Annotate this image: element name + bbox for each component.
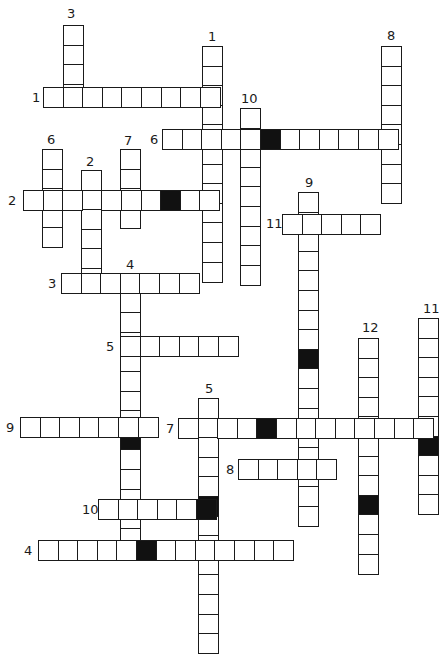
- letter-cell[interactable]: [321, 214, 342, 235]
- letter-cell[interactable]: [198, 336, 219, 357]
- letter-cell[interactable]: [198, 457, 219, 478]
- letter-cell[interactable]: [418, 455, 439, 476]
- letter-cell[interactable]: [61, 273, 82, 294]
- letter-cell[interactable]: [358, 129, 379, 150]
- letter-cell[interactable]: [120, 312, 141, 333]
- letter-cell[interactable]: [354, 418, 375, 439]
- letter-cell[interactable]: [358, 338, 379, 359]
- letter-cell[interactable]: [298, 270, 319, 291]
- letter-cell[interactable]: [358, 475, 379, 496]
- letter-cell[interactable]: [358, 436, 379, 457]
- letter-cell[interactable]: [100, 273, 121, 294]
- letter-cell[interactable]: [43, 190, 64, 211]
- letter-cell[interactable]: [381, 46, 402, 67]
- letter-cell[interactable]: [178, 418, 199, 439]
- letter-cell[interactable]: [298, 251, 319, 272]
- letter-cell[interactable]: [358, 534, 379, 555]
- letter-cell[interactable]: [413, 418, 434, 439]
- letter-cell[interactable]: [298, 506, 319, 527]
- letter-cell[interactable]: [42, 208, 63, 229]
- letter-cell[interactable]: [43, 87, 64, 108]
- letter-cell[interactable]: [195, 540, 216, 561]
- letter-cell[interactable]: [179, 273, 200, 294]
- letter-cell[interactable]: [358, 377, 379, 398]
- letter-cell[interactable]: [138, 417, 159, 438]
- letter-cell[interactable]: [157, 499, 178, 520]
- letter-cell[interactable]: [175, 540, 196, 561]
- letter-cell[interactable]: [202, 242, 223, 263]
- letter-cell[interactable]: [240, 186, 261, 207]
- letter-cell[interactable]: [240, 167, 261, 188]
- letter-cell[interactable]: [276, 418, 297, 439]
- letter-cell[interactable]: [418, 396, 439, 417]
- letter-cell[interactable]: [139, 273, 160, 294]
- letter-cell[interactable]: [240, 129, 261, 150]
- letter-cell[interactable]: [297, 459, 318, 480]
- letter-cell[interactable]: [98, 499, 119, 520]
- letter-cell[interactable]: [358, 358, 379, 379]
- letter-cell[interactable]: [161, 87, 182, 108]
- letter-cell[interactable]: [120, 449, 141, 470]
- letter-cell[interactable]: [298, 310, 319, 331]
- letter-cell[interactable]: [202, 105, 223, 126]
- letter-cell[interactable]: [159, 273, 180, 294]
- letter-cell[interactable]: [42, 169, 63, 190]
- letter-cell[interactable]: [198, 594, 219, 615]
- letter-cell[interactable]: [418, 377, 439, 398]
- letter-cell[interactable]: [394, 418, 415, 439]
- letter-cell[interactable]: [120, 371, 141, 392]
- letter-cell[interactable]: [418, 318, 439, 339]
- letter-cell[interactable]: [381, 164, 402, 185]
- letter-cell[interactable]: [358, 554, 379, 575]
- letter-cell[interactable]: [201, 129, 222, 150]
- letter-cell[interactable]: [418, 357, 439, 378]
- letter-cell[interactable]: [118, 417, 139, 438]
- letter-cell[interactable]: [338, 129, 359, 150]
- letter-cell[interactable]: [378, 129, 399, 150]
- letter-cell[interactable]: [141, 190, 162, 211]
- letter-cell[interactable]: [141, 87, 162, 108]
- letter-cell[interactable]: [214, 540, 235, 561]
- letter-cell[interactable]: [81, 229, 102, 250]
- letter-cell[interactable]: [156, 540, 177, 561]
- letter-cell[interactable]: [238, 459, 259, 480]
- letter-cell[interactable]: [198, 418, 219, 439]
- letter-cell[interactable]: [218, 336, 239, 357]
- letter-cell[interactable]: [63, 87, 84, 108]
- letter-cell[interactable]: [240, 147, 261, 168]
- letter-cell[interactable]: [120, 208, 141, 229]
- letter-cell[interactable]: [240, 265, 261, 286]
- letter-cell[interactable]: [198, 437, 219, 458]
- letter-cell[interactable]: [23, 190, 44, 211]
- letter-cell[interactable]: [298, 329, 319, 350]
- letter-cell[interactable]: [381, 85, 402, 106]
- letter-cell[interactable]: [202, 262, 223, 283]
- letter-cell[interactable]: [120, 391, 141, 412]
- letter-cell[interactable]: [121, 190, 142, 211]
- letter-cell[interactable]: [280, 129, 301, 150]
- letter-cell[interactable]: [298, 388, 319, 409]
- letter-cell[interactable]: [120, 293, 141, 314]
- letter-cell[interactable]: [240, 245, 261, 266]
- letter-cell[interactable]: [81, 170, 102, 191]
- letter-cell[interactable]: [277, 459, 298, 480]
- letter-cell[interactable]: [102, 87, 123, 108]
- letter-cell[interactable]: [179, 336, 200, 357]
- letter-cell[interactable]: [42, 227, 63, 248]
- letter-cell[interactable]: [42, 149, 63, 170]
- letter-cell[interactable]: [38, 540, 59, 561]
- letter-cell[interactable]: [159, 336, 180, 357]
- letter-cell[interactable]: [296, 418, 317, 439]
- letter-cell[interactable]: [341, 214, 362, 235]
- letter-cell[interactable]: [140, 336, 161, 357]
- letter-cell[interactable]: [374, 418, 395, 439]
- letter-cell[interactable]: [381, 183, 402, 204]
- letter-cell[interactable]: [182, 129, 203, 150]
- letter-cell[interactable]: [199, 190, 220, 211]
- letter-cell[interactable]: [198, 614, 219, 635]
- letter-cell[interactable]: [254, 540, 275, 561]
- letter-cell[interactable]: [63, 25, 84, 46]
- letter-cell[interactable]: [118, 499, 139, 520]
- letter-cell[interactable]: [81, 209, 102, 230]
- letter-cell[interactable]: [315, 418, 336, 439]
